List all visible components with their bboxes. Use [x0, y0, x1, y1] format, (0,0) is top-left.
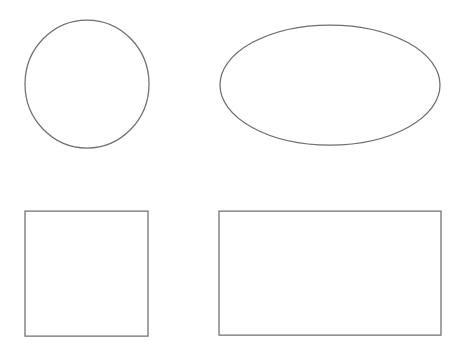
rectangle-shape[interactable]: [219, 211, 441, 335]
ellipse-shape[interactable]: [220, 25, 440, 145]
square-shape[interactable]: [25, 211, 148, 336]
ellipse-group[interactable]: [220, 25, 440, 145]
circle-shape[interactable]: [25, 20, 149, 148]
shapes-svg: [0, 0, 466, 362]
rectangle-group[interactable]: [219, 211, 441, 335]
square-group[interactable]: [25, 211, 148, 336]
circle-group[interactable]: [25, 20, 149, 148]
shapes-canvas: [0, 0, 466, 362]
